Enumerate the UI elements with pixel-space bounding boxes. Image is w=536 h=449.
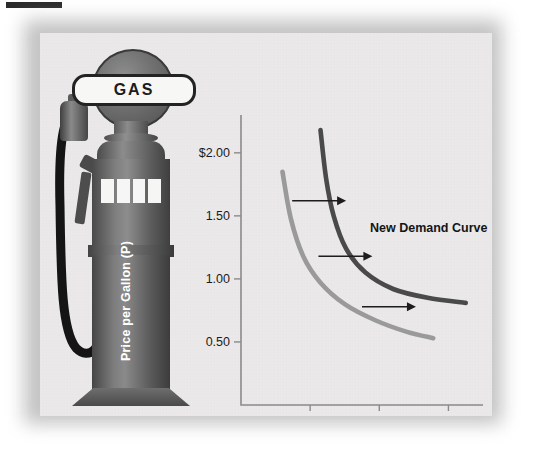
- gas-sign: GAS: [72, 74, 196, 106]
- new-demand-curve: [321, 130, 466, 303]
- pump-display-window: [133, 179, 146, 203]
- gas-sign-label: GAS: [114, 81, 155, 99]
- demand-chart: $2.001.501.000.50 102030: [195, 73, 485, 413]
- y-tick-label: $2.00: [199, 146, 230, 160]
- shift-arrow-top: [292, 196, 346, 205]
- shift-arrows: [292, 196, 416, 311]
- y-tick-label: 1.00: [206, 272, 230, 286]
- chart-axes: [241, 115, 483, 405]
- y-axis-title: Price per Gallon (P): [116, 201, 136, 401]
- pump-display-window: [117, 179, 130, 203]
- axis-lines: [241, 115, 483, 405]
- pump-display-windows: [101, 179, 161, 203]
- y-tick-label: 0.50: [206, 335, 230, 349]
- corner-mark: [6, 2, 62, 8]
- x-axis-ticks: 102030: [303, 405, 455, 413]
- chart-svg: $2.001.501.000.50 102030: [195, 73, 485, 413]
- pump-canister: [60, 101, 88, 141]
- original-demand-curve: [282, 172, 433, 338]
- pump-display-window: [101, 179, 114, 203]
- y-axis-ticks: $2.001.501.000.50: [199, 146, 241, 349]
- gas-pump-illustration: GAS Price per Gallon (P): [50, 41, 215, 413]
- pump-display-window: [148, 179, 161, 203]
- new-demand-curve-label: New Demand Curve: [370, 221, 487, 235]
- shift-arrow-bottom: [362, 302, 416, 311]
- figure-panel: GAS Price per Gallon (P) $2.001.501.000.…: [40, 33, 492, 416]
- y-tick-label: 1.50: [206, 209, 230, 223]
- shift-arrow-middle: [318, 252, 372, 261]
